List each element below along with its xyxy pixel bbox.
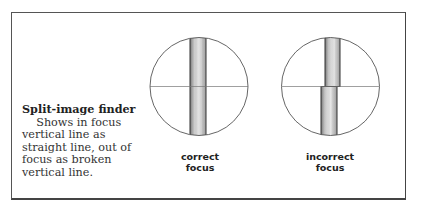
label-line-1: incorrect — [290, 151, 370, 162]
viewfinder-correct-focus — [150, 30, 248, 145]
label-correct-focus: correct focus — [160, 151, 240, 173]
label-line-2: focus — [290, 162, 370, 173]
label-incorrect-focus: incorrect focus — [290, 151, 370, 173]
split-image-diagram — [0, 0, 421, 209]
label-line-2: focus — [160, 162, 240, 173]
viewfinder-incorrect-focus — [282, 30, 380, 145]
vertical-line-continuous — [190, 30, 206, 145]
label-line-1: correct — [160, 151, 240, 162]
